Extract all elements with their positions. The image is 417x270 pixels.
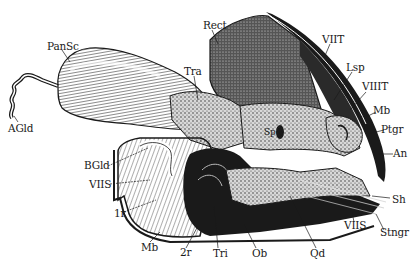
label-stngr: Stngr [380, 227, 409, 238]
label-ptgr: Ptgr [381, 124, 403, 135]
label-tra: Tra [184, 66, 202, 77]
label-lsp: Lsp [346, 62, 364, 73]
label-rect: Rect [203, 20, 226, 31]
anatomical-figure: AGld PanSc Tra Rect VIIT Lsp VIIIT Mb Pt… [0, 0, 417, 270]
label-agld: AGld [8, 123, 33, 134]
label-mb-bottom: Mb [141, 242, 158, 253]
label-pansc: PanSc [47, 41, 79, 52]
label-sp: Sp [264, 128, 276, 137]
spiracle [276, 125, 284, 139]
label-1r: 1r [114, 208, 125, 219]
label-qd: Qd [310, 248, 325, 259]
label-tri: Tri [213, 248, 228, 259]
label-an: An [393, 148, 407, 159]
accessory-gland [11, 75, 58, 118]
label-bgld: BGld [84, 160, 110, 171]
label-viiit: VIIIT [362, 81, 388, 92]
label-2r: 2r [180, 247, 191, 258]
label-sh: Sh [392, 194, 406, 205]
label-mb-top: Mb [373, 105, 390, 116]
label-viis-right: VIIS [344, 220, 366, 231]
label-viis-left: VIIS [89, 179, 111, 190]
label-viit: VIIT [322, 34, 344, 45]
label-ob: Ob [252, 248, 267, 259]
